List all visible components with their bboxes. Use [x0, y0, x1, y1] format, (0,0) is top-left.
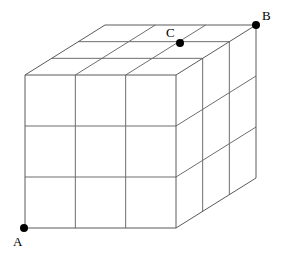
- front-face-grid: [25, 75, 176, 228]
- cube-diagram-svg: [0, 0, 286, 260]
- vertex-dot-c: [176, 39, 184, 47]
- vertex-label-c: C: [166, 26, 175, 39]
- geometry-figure: A B C: [0, 0, 286, 260]
- top-grid-depth-1: [75, 25, 155, 75]
- vertex-label-a: A: [13, 235, 22, 248]
- right-grid-depth-1: [176, 76, 256, 126]
- vertex-dot-b: [252, 21, 260, 29]
- right-grid-depth-2: [176, 127, 256, 177]
- edge-depth-top-left: [25, 25, 105, 75]
- vertex-label-b: B: [262, 9, 271, 22]
- edge-depth-top-right: [176, 25, 256, 75]
- edge-depth-bottom-right: [176, 178, 256, 228]
- vertex-dot-a: [20, 224, 28, 232]
